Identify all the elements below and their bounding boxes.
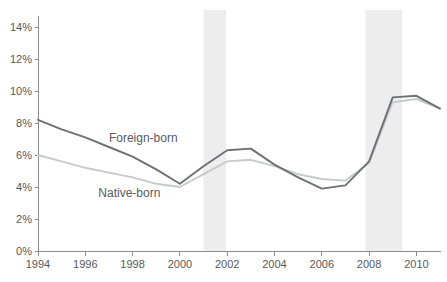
y-tick-label: 4% bbox=[16, 181, 32, 193]
x-tick-label: 1996 bbox=[73, 258, 97, 270]
unemployment-rate-chart: 0%2%4%6%8%10%12%14%199419961998200020022… bbox=[0, 0, 447, 282]
y-tick-label: 12% bbox=[10, 53, 32, 65]
native-born-label: Native-born bbox=[98, 186, 160, 200]
y-tick-label: 14% bbox=[10, 21, 32, 33]
x-tick-label: 2004 bbox=[262, 258, 286, 270]
foreign-born-label: Foreign-born bbox=[109, 131, 178, 145]
recession-band bbox=[204, 10, 227, 251]
x-tick-label: 2000 bbox=[168, 258, 192, 270]
x-tick-label: 2008 bbox=[357, 258, 381, 270]
y-tick-label: 2% bbox=[16, 213, 32, 225]
x-tick-label: 2010 bbox=[404, 258, 428, 270]
line-chart-svg: 0%2%4%6%8%10%12%14%199419961998200020022… bbox=[0, 0, 447, 282]
recession-band bbox=[366, 10, 403, 251]
x-tick-label: 2006 bbox=[310, 258, 334, 270]
x-tick-label: 1998 bbox=[120, 258, 144, 270]
y-tick-label: 6% bbox=[16, 149, 32, 161]
x-tick-label: 2002 bbox=[215, 258, 239, 270]
y-tick-label: 10% bbox=[10, 85, 32, 97]
y-tick-label: 0% bbox=[16, 245, 32, 257]
x-tick-label: 1994 bbox=[26, 258, 50, 270]
y-tick-label: 8% bbox=[16, 117, 32, 129]
